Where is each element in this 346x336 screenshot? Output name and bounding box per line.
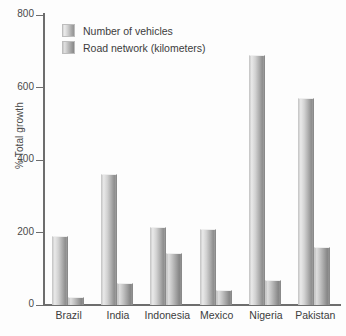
y-axis-tick <box>36 87 44 88</box>
legend-label-series-1: Number of vehicles <box>83 25 173 37</box>
bar-brazil-series-2 <box>68 297 84 305</box>
y-axis-tick-label: 600 <box>0 82 34 92</box>
legend-swatch-icon-series-1 <box>62 24 75 37</box>
y-axis-title: % Total growth <box>14 84 25 188</box>
y-axis-tick <box>36 232 44 233</box>
bar-indonesia-series-1 <box>150 227 166 305</box>
bars-layer <box>44 15 340 305</box>
legend-item-road-network: Road network (kilometers) <box>62 40 206 55</box>
y-axis-tick-label: 800 <box>0 9 34 19</box>
x-axis-label-pakistan: Pakistan <box>285 309 346 321</box>
bar-mexico-series-2 <box>216 290 232 305</box>
legend: Number of vehicles Road network (kilomet… <box>62 23 206 57</box>
y-axis-tick-label: 0 <box>0 299 34 309</box>
bar-brazil-series-1 <box>52 236 68 305</box>
legend-label-series-2: Road network (kilometers) <box>83 42 206 54</box>
bar-indonesia-series-2 <box>166 253 182 305</box>
y-axis-tick-label: 400 <box>0 154 34 164</box>
bar-nigeria-series-1 <box>249 55 265 305</box>
y-axis-tick <box>36 305 44 306</box>
y-axis-tick <box>36 160 44 161</box>
legend-item-number-of-vehicles: Number of vehicles <box>62 23 206 38</box>
bar-mexico-series-1 <box>200 229 216 305</box>
y-axis-tick <box>36 15 44 16</box>
legend-swatch-icon-series-2 <box>62 41 75 54</box>
bar-nigeria-series-2 <box>265 280 281 305</box>
bar-pakistan-series-1 <box>298 98 314 305</box>
bar-india-series-1 <box>101 174 117 305</box>
y-axis-tick-label: 200 <box>0 227 34 237</box>
bar-chart: % Total growth 0200400600800 BrazilIndia… <box>0 0 346 336</box>
bar-india-series-2 <box>117 283 133 305</box>
bar-pakistan-series-2 <box>314 247 330 305</box>
